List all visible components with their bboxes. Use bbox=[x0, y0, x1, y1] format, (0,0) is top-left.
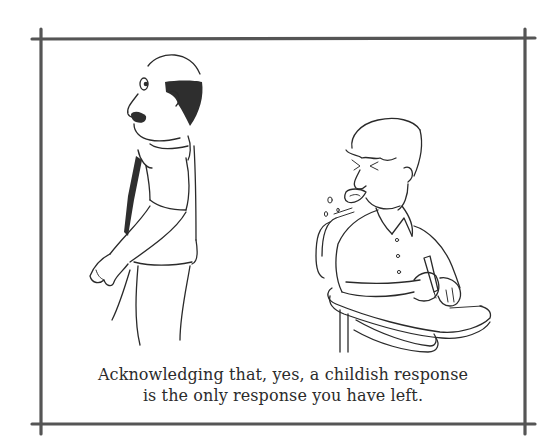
boy-figure bbox=[316, 118, 491, 352]
caption-line-2: is the only response you have left. bbox=[41, 385, 525, 406]
man-figure bbox=[90, 55, 203, 345]
cartoon-caption: Acknowledging that, yes, a childish resp… bbox=[41, 364, 525, 406]
caption-line-1: Acknowledging that, yes, a childish resp… bbox=[41, 364, 525, 385]
